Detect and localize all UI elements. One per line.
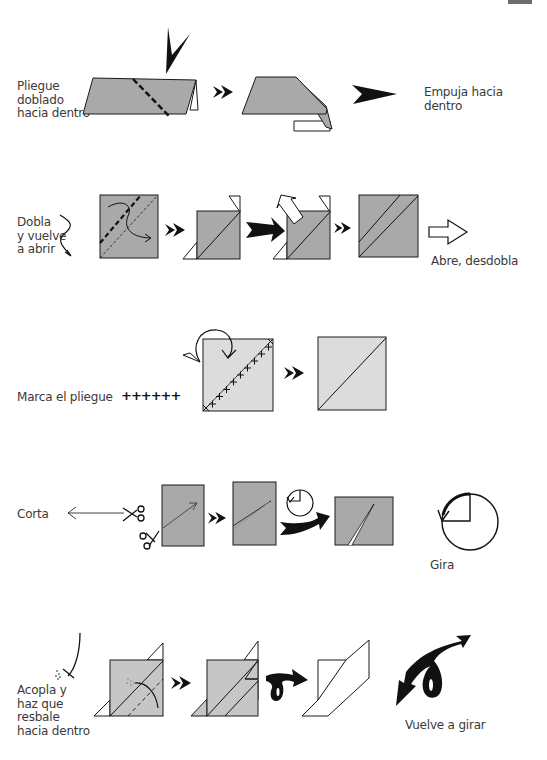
double-arrow-icon [165, 223, 185, 237]
push-arrowhead-icon [352, 85, 397, 104]
scissors-icon [140, 531, 159, 549]
fold-unfold-diagram-2 [183, 196, 240, 259]
push-arrow-icon [166, 27, 190, 74]
double-arrow-icon [171, 676, 191, 690]
fold-unfold-diagram-4 [359, 195, 418, 257]
double-arrow-icon [208, 512, 226, 525]
long-arrow-icon [246, 217, 285, 242]
crease-diagram-2 [318, 337, 386, 410]
fold-unfold-wave-arrow-icon [60, 215, 70, 255]
sink-diagram-3 [302, 640, 369, 716]
fold-unfold-diagram-1 [100, 195, 158, 258]
double-arrow-icon [284, 366, 304, 380]
cut-line-arrow-icon [68, 507, 124, 519]
cut-diagram-1 [162, 485, 204, 546]
reverse-fold-diagram-1 [83, 78, 198, 116]
sink-diagram-2 [191, 641, 258, 716]
reverse-fold-diagram-2 [242, 77, 332, 131]
turn-over-small-icon [266, 669, 308, 701]
scissors-icon [123, 506, 144, 521]
rotate-small-icon [287, 490, 313, 516]
fold-unfold-diagram-3 [273, 195, 330, 259]
cut-diagram-2 [233, 482, 276, 545]
diagram-canvas [0, 0, 547, 760]
rotate-icon [438, 494, 498, 550]
double-arrow-icon [213, 85, 233, 99]
crease-diagram-1 [183, 330, 273, 411]
sink-diagram-1 [94, 643, 163, 716]
double-arrow-icon [334, 222, 351, 234]
hollow-arrow-icon [429, 220, 467, 244]
sink-symbol-icon [55, 633, 80, 680]
cut-diagram-3 [335, 497, 393, 545]
turn-over-icon [396, 635, 471, 706]
